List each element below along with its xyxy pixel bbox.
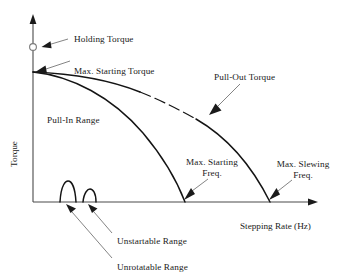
- unrotatable-range-leader-arrowhead: [66, 204, 76, 213]
- max-slewing-freq-leader-arrowhead: [269, 188, 280, 200]
- pull-out-torque-leader-line: [218, 84, 240, 106]
- max-starting-freq-label-line2: Freq.: [202, 168, 222, 178]
- holding-torque-leader-line: [48, 39, 68, 45]
- x-axis-arrowhead: [308, 199, 318, 206]
- curves-group: [33, 72, 270, 202]
- max-starting-freq-leader-line: [192, 179, 208, 191]
- x-axis-label: Stepping Rate (Hz): [240, 221, 311, 231]
- unstartable-range-leader-line: [94, 212, 112, 233]
- holding-torque-label: Holding Torque: [74, 34, 134, 44]
- diagram-canvas: Holding Torque Max. Starting Torque Pull…: [0, 0, 355, 280]
- pull-out-torque-label: Pull-Out Torque: [214, 72, 275, 82]
- unstartable-range-label: Unstartable Range: [117, 236, 187, 246]
- max-starting-torque-leader-arrowhead: [35, 66, 48, 74]
- unstartable-range-leader-arrowhead: [88, 204, 98, 213]
- holding-torque-marker-circle: [30, 44, 37, 51]
- pull-out-torque-curve-dashed-segment: [140, 92, 196, 119]
- unstartable-range-hump: [83, 189, 96, 202]
- unrotatable-range-hump: [60, 181, 76, 202]
- pull-out-torque-leader-arrowhead: [209, 104, 222, 116]
- torque-speed-diagram: Holding Torque Max. Starting Torque Pull…: [0, 0, 355, 280]
- max-slewing-freq-label-line1: Max. Slewing: [277, 159, 330, 169]
- unrotatable-range-leader-line: [72, 212, 112, 258]
- pull-in-range-label: Pull-In Range: [47, 115, 100, 125]
- max-starting-torque-label: Max. Starting Torque: [74, 66, 155, 76]
- unrotatable-range-label: Unrotatable Range: [117, 262, 188, 272]
- pull-in-torque-curve: [33, 72, 185, 202]
- max-slewing-freq-label-line2: Freq.: [293, 170, 313, 180]
- max-starting-freq-label-line1: Max. Starting: [186, 157, 238, 167]
- max-starting-torque-leader-line: [46, 61, 70, 69]
- y-axis-arrowhead: [30, 14, 37, 24]
- labels-group: Holding Torque Max. Starting Torque Pull…: [9, 34, 330, 272]
- markers-group: [30, 44, 37, 51]
- max-slewing-freq-leader-line: [278, 180, 292, 191]
- y-axis-label: Torque: [9, 141, 19, 167]
- holding-torque-leader-arrowhead: [42, 41, 52, 48]
